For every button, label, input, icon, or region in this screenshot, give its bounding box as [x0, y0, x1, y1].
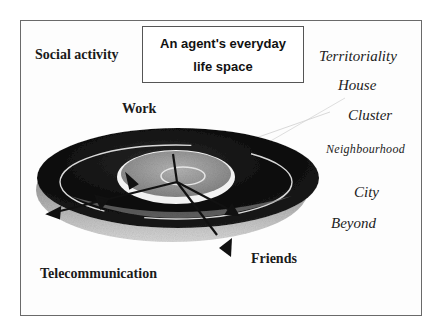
label-work: Work: [122, 101, 156, 117]
label-friends: Friends: [251, 251, 297, 267]
label-territoriality: Territoriality: [319, 48, 397, 65]
label-beyond: Beyond: [331, 215, 376, 232]
label-city: City: [354, 184, 379, 201]
title-line-2: life space: [143, 55, 303, 78]
label-cluster: Cluster: [348, 107, 392, 124]
label-telecommunication: Telecommunication: [40, 266, 157, 282]
label-house: House: [338, 77, 376, 94]
title-box: An agent's everyday life space: [142, 26, 304, 83]
label-social-activity: Social activity: [35, 47, 119, 63]
arrowhead-friends: [219, 238, 232, 257]
leader-line-cluster: [250, 112, 330, 140]
label-neighbourhood: Neighbourhood: [326, 142, 405, 157]
title-line-1: An agent's everyday: [143, 32, 303, 55]
